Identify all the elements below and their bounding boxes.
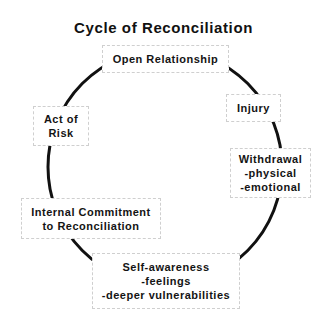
node-label: to Reconciliation — [42, 219, 139, 233]
node-act-of-risk: Act of Risk — [33, 106, 89, 146]
node-internal-commitment: Internal Commitment to Reconciliation — [21, 198, 161, 239]
node-label: Internal Commitment — [31, 205, 151, 219]
node-label: Withdrawal — [239, 152, 303, 166]
node-withdrawal: Withdrawal -physical -emotional — [230, 148, 311, 198]
node-sublabel: -feelings — [141, 274, 191, 288]
node-injury: Injury — [226, 94, 281, 122]
node-self-awareness: Self-awareness -feelings -deeper vulnera… — [92, 253, 240, 309]
node-sublabel: -physical — [244, 166, 296, 180]
node-label: Act of — [44, 112, 78, 126]
node-label: Open Relationship — [113, 52, 219, 66]
node-sublabel: -deeper vulnerabilities — [102, 288, 230, 302]
node-open-relationship: Open Relationship — [102, 45, 229, 73]
node-sublabel: -emotional — [240, 180, 301, 194]
node-label: Risk — [48, 126, 73, 140]
node-label: Injury — [237, 101, 270, 115]
node-label: Self-awareness — [122, 260, 209, 274]
